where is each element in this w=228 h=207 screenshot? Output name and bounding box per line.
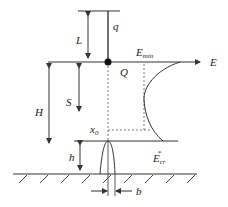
label-q: q [113, 20, 119, 32]
label-h: h [69, 151, 75, 163]
ground-hatch [19, 175, 195, 183]
label-x0: x0 [89, 123, 99, 137]
label-L: L [75, 34, 82, 46]
charge-Q [105, 59, 112, 66]
label-E-axis: E [209, 56, 217, 68]
label-Emin: Emin [135, 46, 154, 60]
label-Q: Q [120, 66, 128, 78]
electrode-field-diagram: q L Emin E Q H S x0 h Ecr* b [0, 0, 228, 207]
field-curve [144, 62, 180, 141]
label-H: H [34, 106, 44, 118]
streamer-profile [100, 141, 115, 174]
label-Ecr: Ecr* [152, 149, 166, 166]
label-S: S [66, 96, 72, 108]
label-b: b [136, 185, 142, 197]
